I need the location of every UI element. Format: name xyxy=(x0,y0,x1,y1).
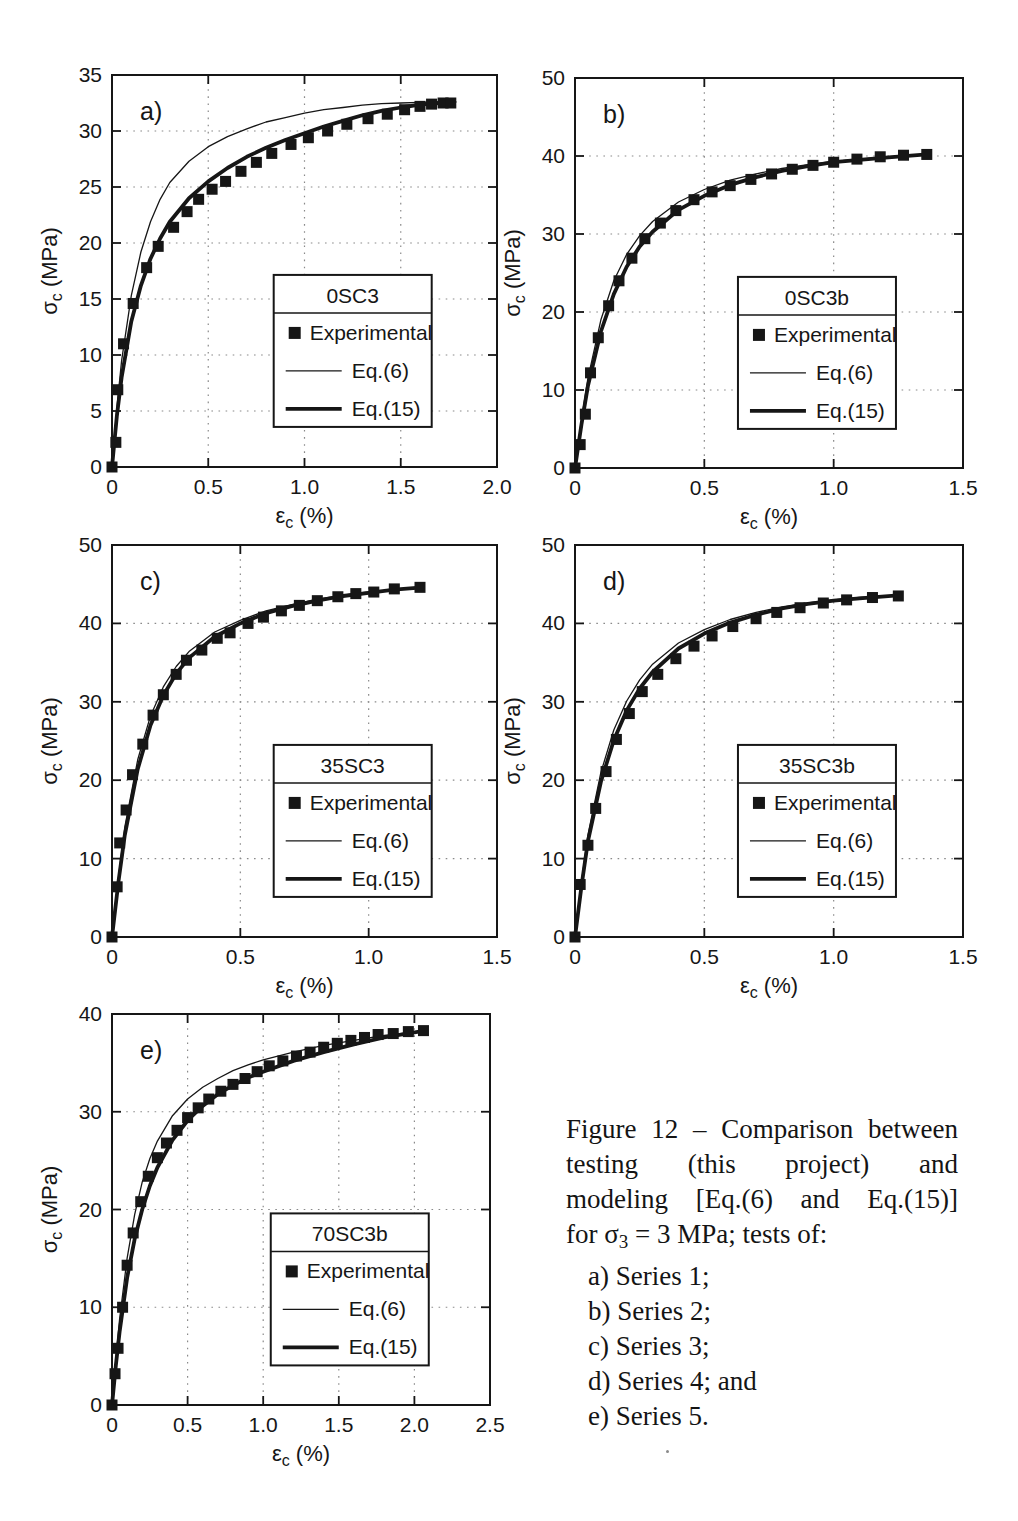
x-tick-label: 1.5 xyxy=(948,476,977,499)
y-tick-label: 0 xyxy=(90,1393,102,1416)
data-point-marker xyxy=(575,879,586,890)
panel-d: 00.51.01.501020304050εc (%)σc (MPa)d)35S… xyxy=(500,533,978,1001)
data-point-marker xyxy=(373,1029,384,1040)
x-tick-label: 1.5 xyxy=(948,945,977,968)
data-point-marker xyxy=(294,600,305,611)
y-tick-label: 10 xyxy=(542,847,565,870)
panel-e: 00.51.01.52.02.5010203040εc (%)σc (MPa)e… xyxy=(37,1002,505,1469)
legend-entry-label: Experimental xyxy=(310,321,433,344)
data-point-marker xyxy=(795,602,806,613)
y-axis-label: σc (MPa) xyxy=(500,229,528,317)
y-tick-label: 50 xyxy=(79,533,102,556)
y-axis-label: σc (MPa) xyxy=(37,1166,65,1254)
data-point-marker xyxy=(148,710,159,721)
data-point-marker xyxy=(193,194,204,205)
data-point-marker xyxy=(341,119,352,130)
legend-title: 0SC3b xyxy=(785,286,849,309)
legend-title: 70SC3b xyxy=(312,1222,388,1245)
data-point-marker xyxy=(399,104,410,115)
data-point-marker xyxy=(158,689,169,700)
data-point-marker xyxy=(921,149,932,160)
x-tick-label: 0.5 xyxy=(690,476,719,499)
caption-line-1: Figure 12 – Comparison between xyxy=(566,1112,958,1147)
data-point-marker xyxy=(613,275,624,286)
x-tick-label: 0 xyxy=(569,476,581,499)
legend-entry-label: Experimental xyxy=(774,323,897,346)
data-point-marker xyxy=(426,99,437,110)
data-point-marker xyxy=(828,157,839,168)
y-tick-label: 30 xyxy=(79,119,102,142)
caption-item-d: d) Series 4; and xyxy=(588,1364,958,1399)
data-point-marker xyxy=(670,653,681,664)
y-tick-label: 40 xyxy=(542,144,565,167)
x-tick-label: 0 xyxy=(106,475,118,498)
data-point-marker xyxy=(655,218,666,229)
data-point-marker xyxy=(276,605,287,616)
y-tick-label: 30 xyxy=(542,690,565,713)
data-point-marker xyxy=(225,627,236,638)
data-point-marker xyxy=(445,98,456,109)
y-tick-label: 40 xyxy=(79,1002,102,1025)
data-point-marker xyxy=(235,166,246,177)
data-point-marker xyxy=(193,1102,204,1113)
panel-letter-label: c) xyxy=(140,567,161,595)
data-point-marker xyxy=(593,332,604,343)
y-tick-label: 35 xyxy=(79,63,102,86)
data-point-marker xyxy=(220,176,231,187)
panel-a: 00.51.01.52.005101520253035εc (%)σc (MPa… xyxy=(37,63,512,531)
data-point-marker xyxy=(345,1035,356,1046)
y-tick-label: 10 xyxy=(79,343,102,366)
x-tick-label: 2.5 xyxy=(475,1413,504,1436)
data-point-marker xyxy=(707,186,718,197)
data-point-marker xyxy=(350,588,361,599)
data-point-marker xyxy=(624,708,635,719)
data-point-marker xyxy=(112,384,123,395)
legend: 35SC3bExperimentalEq.(6)Eq.(15) xyxy=(738,745,897,897)
x-tick-label: 1.0 xyxy=(819,476,848,499)
data-point-marker xyxy=(575,439,586,450)
legend: 0SC3ExperimentalEq.(6)Eq.(15) xyxy=(274,275,433,427)
y-tick-label: 10 xyxy=(79,1295,102,1318)
data-point-marker xyxy=(415,582,426,593)
data-point-marker xyxy=(112,881,123,892)
legend: 35SC3ExperimentalEq.(6)Eq.(15) xyxy=(274,745,433,897)
data-point-marker xyxy=(128,298,139,309)
paper-figure-page: 00.51.01.52.005101520253035εc (%)σc (MPa… xyxy=(0,0,1018,1521)
x-tick-label: 1.5 xyxy=(386,475,415,498)
y-tick-label: 30 xyxy=(79,1100,102,1123)
data-point-marker xyxy=(637,686,648,697)
data-point-marker xyxy=(207,184,218,195)
x-tick-label: 0 xyxy=(106,945,118,968)
x-axis-label: εc (%) xyxy=(740,504,798,532)
panel-b: 00.51.01.501020304050εc (%)σc (MPa)b)0SC… xyxy=(500,66,978,532)
data-point-marker xyxy=(182,206,193,217)
data-point-marker xyxy=(707,630,718,641)
data-point-marker xyxy=(332,1038,343,1049)
caption-sigma3-pre: for σ xyxy=(566,1219,619,1249)
y-tick-label: 50 xyxy=(542,66,565,89)
legend-entry-label: Experimental xyxy=(774,791,897,814)
caption-line-2: testing (this project) and xyxy=(566,1147,958,1182)
panel-letter-label: d) xyxy=(603,567,625,595)
legend-title: 35SC3 xyxy=(321,754,385,777)
data-point-marker xyxy=(128,1227,139,1238)
data-point-marker xyxy=(196,645,207,656)
data-point-marker xyxy=(590,803,601,814)
legend-entry-label: Eq.(15) xyxy=(816,399,885,422)
data-point-marker xyxy=(152,1152,163,1163)
data-point-marker xyxy=(240,1073,251,1084)
data-point-marker xyxy=(305,1047,316,1058)
data-point-marker xyxy=(389,583,400,594)
x-tick-label: 1.0 xyxy=(249,1413,278,1436)
data-point-marker xyxy=(266,148,277,159)
scan-speck xyxy=(666,1450,669,1453)
x-tick-label: 0 xyxy=(106,1413,118,1436)
data-point-marker xyxy=(603,300,614,311)
data-point-marker xyxy=(670,205,681,216)
figure-caption: Figure 12 – Comparison between testing (… xyxy=(566,1112,958,1434)
data-point-marker xyxy=(227,1079,238,1090)
legend-entry-label: Eq.(15) xyxy=(352,867,421,890)
legend-entry-label: Eq.(6) xyxy=(349,1297,406,1320)
data-point-marker xyxy=(135,1196,146,1207)
data-point-marker xyxy=(181,655,192,666)
